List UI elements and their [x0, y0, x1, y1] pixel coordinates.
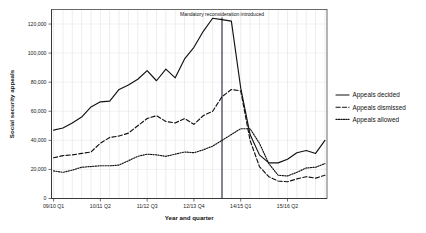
x-axis-tick-label: 15/16 Q2	[277, 203, 298, 209]
legend-label-appeals-allowed: Appeals allowed	[353, 116, 400, 124]
x-axis-tick-label: 10/11 Q2	[90, 203, 111, 209]
y-axis-tick-label: 120,000	[28, 21, 47, 27]
legend-label-appeals-dismissed: Appeals dismissed	[353, 104, 407, 112]
x-axis-tick-label: 14/15 Q1	[230, 203, 251, 209]
x-axis-tick-label: 09/10 Q1	[43, 203, 64, 209]
series-line-appeals-decided	[54, 18, 325, 163]
social-security-appeals-line-chart: 020,00040,00060,00080,000100,000120,0000…	[0, 0, 426, 233]
plot-area-frame	[52, 10, 328, 199]
series-line-appeals-dismissed	[54, 89, 325, 181]
y-axis-title: Social security appeals	[8, 69, 15, 138]
annotation-label: Mandatory reconsideration introduced	[180, 11, 264, 17]
chart-figure: 020,00040,00060,00080,000100,000120,0000…	[0, 0, 426, 233]
y-axis-tick-label: 80,000	[31, 79, 47, 85]
legend-label-appeals-decided: Appeals decided	[353, 91, 401, 99]
y-axis-tick-label: 0	[44, 195, 47, 201]
x-axis-tick-label: 12/13 Q4	[183, 203, 204, 209]
y-axis-tick-label: 60,000	[31, 108, 47, 114]
series-line-appeals-allowed	[54, 129, 325, 176]
x-axis-tick-label: 11/12 Q3	[137, 203, 158, 209]
y-axis-tick-label: 40,000	[31, 137, 47, 143]
x-axis-title: Year and quarter	[165, 214, 214, 221]
y-axis-tick-label: 100,000	[28, 50, 47, 56]
y-axis-tick-label: 20,000	[31, 166, 47, 172]
